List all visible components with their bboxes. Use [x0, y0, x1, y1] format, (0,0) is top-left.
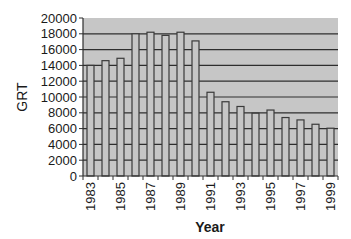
y-tick-label: 14000 — [41, 58, 77, 73]
bar-1992 — [222, 102, 229, 176]
y-tick-label: 8000 — [48, 105, 77, 120]
y-tick-label: 20000 — [41, 11, 77, 26]
x-tick-label: 1999 — [323, 182, 338, 211]
bar-1994 — [252, 113, 259, 176]
y-tick-label: 4000 — [48, 137, 77, 152]
bar-1989 — [177, 32, 184, 176]
bar-1986 — [132, 34, 139, 176]
bar-1996 — [282, 118, 289, 176]
y-tick-label: 10000 — [41, 90, 77, 105]
bar-1985 — [117, 58, 124, 176]
x-tick-label: 1985 — [113, 182, 128, 211]
bar-1987 — [147, 32, 154, 176]
y-tick-label: 0 — [70, 169, 77, 184]
x-tick-label: 1995 — [263, 182, 278, 211]
bar-1995 — [267, 110, 274, 176]
y-tick-label: 18000 — [41, 26, 77, 41]
y-tick-label: 2000 — [48, 153, 77, 168]
x-tick-label: 1997 — [293, 182, 308, 211]
bar-1997 — [297, 120, 304, 176]
x-axis-title: Year — [195, 219, 225, 235]
y-axis-ticks: 0200040006000800010000120001400016000180… — [41, 11, 83, 184]
bar-1983 — [87, 65, 94, 176]
x-tick-label: 1993 — [233, 182, 248, 211]
y-tick-label: 16000 — [41, 42, 77, 57]
bar-1998 — [312, 124, 319, 176]
y-tick-label: 6000 — [48, 121, 77, 136]
bar-1990 — [192, 41, 199, 176]
x-tick-label: 1991 — [203, 182, 218, 211]
x-tick-label: 1983 — [83, 182, 98, 211]
x-tick-label: 1987 — [143, 182, 158, 211]
bar-1999 — [327, 128, 334, 176]
bar-1984 — [102, 61, 109, 176]
x-tick-label: 1989 — [173, 182, 188, 211]
bar-1993 — [237, 106, 244, 176]
x-axis-ticks: 198319851987198919911993199519971999 — [83, 176, 338, 211]
bar-1988 — [162, 35, 169, 176]
bar-chart: 0200040006000800010000120001400016000180… — [0, 0, 351, 239]
y-axis-title: GRT — [14, 82, 30, 112]
y-tick-label: 12000 — [41, 74, 77, 89]
bar-1991 — [207, 92, 214, 176]
